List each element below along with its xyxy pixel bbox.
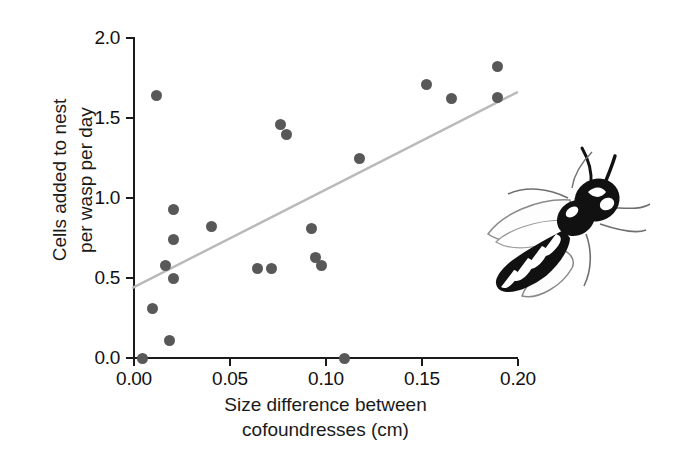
data-point [168, 234, 179, 245]
data-point [266, 263, 277, 274]
data-point [316, 260, 327, 271]
data-point [492, 92, 503, 103]
data-point [168, 273, 179, 284]
data-point [492, 61, 503, 72]
paper-wasp-illustration [452, 138, 674, 316]
data-point [281, 129, 292, 140]
data-point [206, 221, 217, 232]
scatter-plot-figure: 0.0 0.5 1.0 1.5 2.0 0.00 0.05 0.10 0.15 … [0, 0, 683, 454]
data-point [421, 79, 432, 90]
data-point [446, 93, 457, 104]
data-point [306, 223, 317, 234]
data-point [168, 204, 179, 215]
data-point [339, 353, 350, 364]
wasp-leg-2 [600, 224, 646, 232]
data-point [147, 303, 158, 314]
data-point [137, 353, 148, 364]
data-point [354, 153, 365, 164]
data-point [252, 263, 263, 274]
data-point [164, 335, 175, 346]
data-point [151, 90, 162, 101]
wasp-leg-4 [508, 189, 568, 198]
data-point [160, 260, 171, 271]
wasp-leg-3 [584, 234, 590, 286]
